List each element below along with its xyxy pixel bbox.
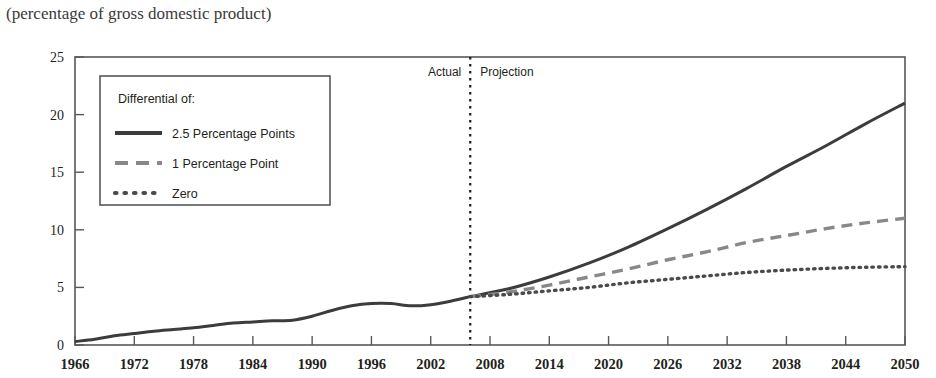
y-axis-ticks (75, 57, 84, 345)
y-tick-label: 15 (50, 165, 64, 180)
series-line (470, 218, 905, 296)
actual-label: Actual (428, 65, 461, 79)
y-tick-label: 5 (57, 280, 64, 295)
x-axis-ticks (75, 336, 905, 345)
y-tick-label: 25 (50, 50, 64, 65)
x-tick-label: 2044 (831, 356, 860, 372)
series-line (75, 297, 470, 342)
x-tick-label: 2032 (713, 356, 742, 372)
x-tick-label: 1984 (238, 356, 267, 372)
y-axis-labels: 0510152025 (50, 50, 64, 353)
x-tick-label: 1990 (298, 356, 327, 372)
x-tick-label: 2050 (891, 356, 920, 372)
y-tick-label: 20 (50, 108, 64, 123)
x-tick-label: 1978 (179, 356, 208, 372)
x-axis-labels: 1966197219781984199019962002200820142020… (61, 356, 920, 372)
y-tick-label: 10 (50, 223, 64, 238)
legend-item-label: 1 Percentage Point (172, 157, 279, 171)
chart-figure: (percentage of gross domestic product) 0… (0, 0, 936, 378)
x-tick-label: 2038 (772, 356, 801, 372)
x-tick-label: 1972 (120, 356, 149, 372)
legend-item-label: 2.5 Percentage Points (172, 127, 295, 141)
x-tick-label: 2008 (476, 356, 505, 372)
chart-legend: Differential of:2.5 Percentage Points1 P… (100, 76, 330, 205)
chart-plot: 0510152025 19661972197819841990199620022… (0, 0, 936, 378)
x-tick-label: 1966 (61, 356, 90, 372)
y-tick-label: 0 (57, 338, 64, 353)
x-tick-label: 1996 (357, 356, 386, 372)
projection-label: Projection (480, 65, 533, 79)
x-tick-label: 2020 (594, 356, 623, 372)
legend-item-label: Zero (172, 187, 198, 201)
x-tick-label: 2002 (416, 356, 445, 372)
x-tick-label: 2026 (653, 356, 682, 372)
x-tick-label: 2014 (535, 356, 564, 372)
legend-title: Differential of: (118, 92, 195, 106)
